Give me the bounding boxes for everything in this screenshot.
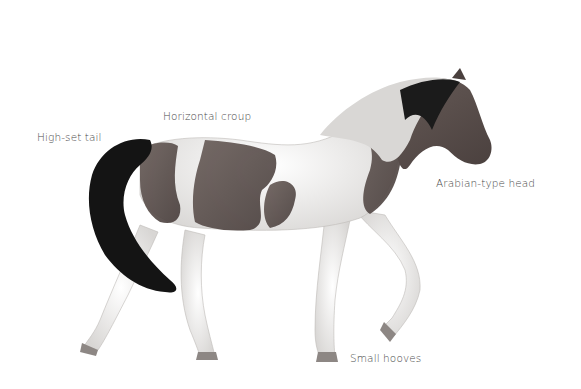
legs [84,210,420,358]
label-tail: High-set tail [37,131,102,143]
hooves [80,322,396,362]
ear [452,68,466,80]
label-hooves: Small hooves [350,352,421,364]
horse-image [0,0,581,389]
label-head: Arabian-type head [436,177,535,189]
horse-illustration: High-set tail Horizontal croup Arabian-t… [0,0,581,389]
label-croup: Horizontal croup [163,110,251,122]
